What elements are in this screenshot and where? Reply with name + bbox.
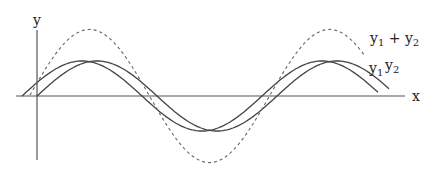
sum-label: y1 + y2 (370, 31, 419, 48)
y2-label: y2 (385, 58, 399, 75)
y1-label: y1 (369, 61, 383, 78)
diagram-svg (0, 0, 433, 181)
y-axis-label: y (33, 13, 41, 27)
x-axis-label: x (412, 89, 420, 103)
superposition-diagram: y x y1 y2 y1 + y2 (0, 0, 433, 181)
